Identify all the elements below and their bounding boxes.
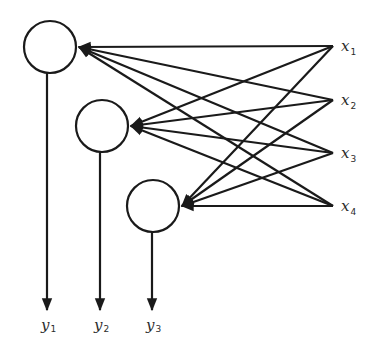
neuron-n3 (127, 180, 179, 232)
neuron-n1 (24, 21, 76, 73)
output-label-y3: y3 (145, 316, 161, 334)
input-label-x1: x1 (341, 37, 356, 57)
edge-x2-to-n1 (79, 47, 333, 100)
input-label-x2: x2 (341, 91, 356, 111)
output-label-y2: y2 (93, 316, 109, 334)
neural-network-diagram: x1x2x3x4y1y2y3 (0, 0, 379, 357)
output-label-y1: y1 (40, 316, 56, 334)
input-label-x4: x4 (341, 197, 356, 217)
input-label-x3: x3 (341, 144, 356, 164)
labels: x1x2x3x4y1y2y3 (40, 37, 356, 334)
edge-x1-to-n1 (79, 46, 333, 47)
neuron-n2 (76, 100, 128, 152)
